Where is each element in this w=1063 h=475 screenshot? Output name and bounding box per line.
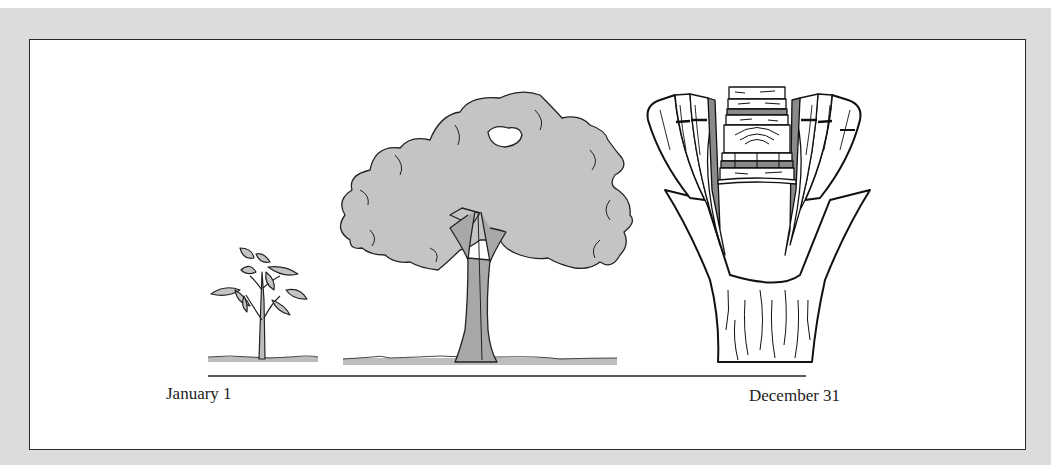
tree-icon bbox=[341, 92, 633, 365]
timeline-end-label: December 31 bbox=[749, 386, 840, 406]
wood-cross-section-icon bbox=[648, 87, 871, 362]
timeline-start-label: January 1 bbox=[166, 384, 232, 404]
seedling-icon bbox=[208, 248, 318, 362]
timeline-illustration bbox=[0, 0, 1063, 475]
